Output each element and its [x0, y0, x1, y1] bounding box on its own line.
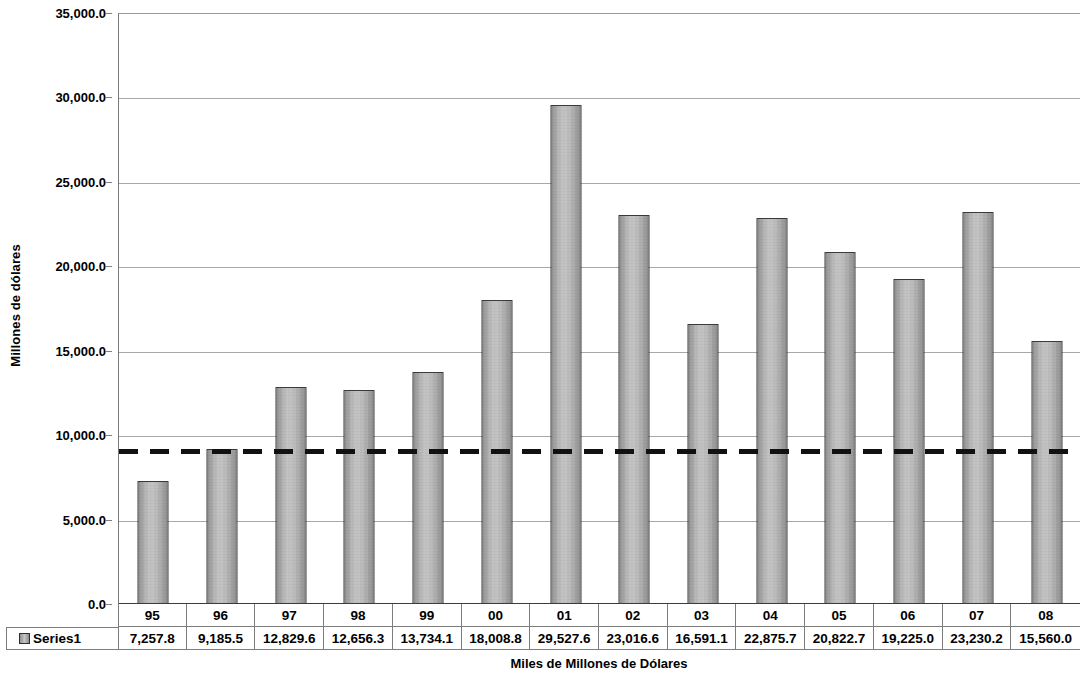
- reference-line: [119, 449, 1080, 454]
- bars-layer: [119, 14, 1080, 604]
- category-cell: 96: [187, 604, 256, 626]
- bar-texture: [963, 213, 992, 603]
- bar-texture: [414, 373, 443, 603]
- bar-texture: [895, 280, 924, 603]
- bar-slot: [600, 14, 669, 604]
- legend-swatch-icon: [19, 633, 30, 644]
- value-cell: 12,656.3: [324, 627, 393, 649]
- bar-texture: [345, 391, 374, 603]
- y-tick-label: 0.0: [88, 597, 106, 612]
- data-table: 9596979899000102030405060708 7,257.89,18…: [118, 604, 1080, 650]
- legend-series1[interactable]: Series1: [6, 627, 118, 650]
- category-cell: 98: [324, 604, 393, 626]
- bar-texture: [689, 325, 718, 603]
- value-cell: 20,822.7: [805, 627, 874, 649]
- bar-texture: [551, 106, 580, 603]
- bar[interactable]: [962, 212, 993, 604]
- bar-texture: [620, 216, 649, 603]
- bar[interactable]: [1031, 341, 1062, 604]
- bar[interactable]: [756, 218, 787, 604]
- bar-slot: [1012, 14, 1080, 604]
- category-cell: 01: [530, 604, 599, 626]
- bar[interactable]: [688, 324, 719, 604]
- bar[interactable]: [619, 215, 650, 604]
- value-cell: 15,560.0: [1011, 627, 1080, 649]
- category-cell: 08: [1011, 604, 1080, 626]
- y-tick-mark: [106, 520, 112, 521]
- bar-slot: [119, 14, 188, 604]
- y-axis-tick-labels: 0.05,000.010,000.015,000.020,000.025,000…: [30, 0, 112, 612]
- x-axis-title: Miles de Millones de Dólares: [118, 656, 1080, 671]
- y-tick-mark: [106, 435, 112, 436]
- y-tick-label: 35,000.0: [55, 6, 106, 21]
- value-cell: 18,008.8: [462, 627, 531, 649]
- bar-slot: [737, 14, 806, 604]
- value-cell: 19,225.0: [874, 627, 943, 649]
- y-tick-mark: [106, 13, 112, 14]
- y-tick-label: 30,000.0: [55, 90, 106, 105]
- value-cell: 7,257.8: [118, 627, 187, 649]
- category-cell: 07: [943, 604, 1012, 626]
- y-tick-mark: [106, 604, 112, 605]
- category-cell: 04: [736, 604, 805, 626]
- data-table-value-row: 7,257.89,185.512,829.612,656.313,734.118…: [118, 627, 1080, 650]
- bar-texture: [1032, 342, 1061, 603]
- category-cell: 03: [668, 604, 737, 626]
- value-cell: 23,016.6: [599, 627, 668, 649]
- category-cell: 97: [255, 604, 324, 626]
- bar-slot: [806, 14, 875, 604]
- bar-slot: [531, 14, 600, 604]
- bar-slot: [325, 14, 394, 604]
- y-tick-mark: [106, 266, 112, 267]
- value-cell: 23,230.2: [943, 627, 1012, 649]
- bar[interactable]: [344, 390, 375, 604]
- bar-slot: [944, 14, 1013, 604]
- legend-label: Series1: [33, 631, 81, 646]
- bar-slot: [669, 14, 738, 604]
- y-tick-label: 10,000.0: [55, 428, 106, 443]
- value-cell: 9,185.5: [187, 627, 256, 649]
- value-cell: 16,591.1: [668, 627, 737, 649]
- bar-slot: [256, 14, 325, 604]
- bar[interactable]: [275, 387, 306, 604]
- bar-texture: [757, 219, 786, 603]
- plot-area: [118, 13, 1080, 604]
- y-tick-label: 15,000.0: [55, 343, 106, 358]
- y-tick-label: 20,000.0: [55, 259, 106, 274]
- bar[interactable]: [413, 372, 444, 604]
- bar[interactable]: [550, 105, 581, 604]
- y-tick-mark: [106, 182, 112, 183]
- bar-slot: [875, 14, 944, 604]
- y-axis-title-label: Millones de dólares: [8, 244, 23, 367]
- category-cell: 06: [874, 604, 943, 626]
- bar[interactable]: [207, 449, 238, 604]
- y-tick-label: 5,000.0: [63, 512, 106, 527]
- category-cell: 99: [393, 604, 462, 626]
- category-cell: 02: [599, 604, 668, 626]
- y-tick-label: 25,000.0: [55, 174, 106, 189]
- value-cell: 13,734.1: [393, 627, 462, 649]
- y-tick-mark: [106, 97, 112, 98]
- category-cell: 00: [462, 604, 531, 626]
- bar[interactable]: [825, 252, 856, 604]
- category-cell: 95: [118, 604, 187, 626]
- bar[interactable]: [138, 481, 169, 604]
- data-table-header-row: 9596979899000102030405060708: [118, 604, 1080, 627]
- value-cell: 12,829.6: [255, 627, 324, 649]
- y-axis-title: Millones de dólares: [0, 0, 30, 610]
- bar-texture: [139, 482, 168, 603]
- bar-slot: [463, 14, 532, 604]
- bar[interactable]: [894, 279, 925, 604]
- bar-slot: [394, 14, 463, 604]
- bar-chart: Millones de dólares 0.05,000.010,000.015…: [0, 0, 1080, 678]
- value-cell: 22,875.7: [736, 627, 805, 649]
- value-cell: 29,527.6: [530, 627, 599, 649]
- bar-texture: [826, 253, 855, 603]
- bar-texture: [208, 450, 237, 603]
- bar-texture: [276, 388, 305, 603]
- category-cell: 05: [805, 604, 874, 626]
- bar-slot: [188, 14, 257, 604]
- y-tick-mark: [106, 351, 112, 352]
